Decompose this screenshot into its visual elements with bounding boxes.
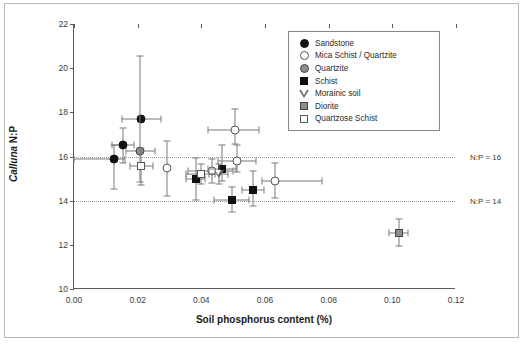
x-tick-label: 0.12 xyxy=(448,288,465,305)
legend-item-schist[interactable]: Schist xyxy=(293,75,435,88)
legend-item-sandstone[interactable]: Sandstone xyxy=(293,37,435,50)
data-point xyxy=(119,141,128,150)
x-error-cap xyxy=(258,127,259,134)
y-tick-mark xyxy=(70,112,74,113)
x-error-cap xyxy=(241,186,242,193)
legend-marker-triangle-open-icon xyxy=(293,90,315,98)
x-tick-label: 0.02 xyxy=(129,288,146,305)
y-error-cap xyxy=(137,56,144,57)
legend-label: Quartzite xyxy=(315,64,348,73)
data-point xyxy=(230,126,239,135)
data-point xyxy=(395,229,403,237)
x-error-cap xyxy=(249,196,250,203)
y-error-cap xyxy=(219,145,226,146)
x-tick-label: 0.06 xyxy=(257,288,274,305)
data-point xyxy=(137,162,145,170)
y-error-cap xyxy=(271,163,278,164)
x-error-cap xyxy=(154,147,155,154)
x-error-cap xyxy=(112,142,113,149)
y-error-cap xyxy=(249,170,256,171)
marker-shape xyxy=(300,39,309,48)
data-point xyxy=(162,163,171,172)
figure-frame: Calluna N:P Soil phosphorus content (%) … xyxy=(4,3,519,338)
legend-marker-square-gray-icon xyxy=(293,102,315,110)
x-error-cap xyxy=(207,127,208,134)
y-error-cap xyxy=(138,147,145,148)
marker-shape xyxy=(300,51,309,60)
marker-circle-filled-icon xyxy=(137,114,146,123)
x-tick-label: 0.00 xyxy=(66,288,83,305)
legend-label: Quartzose Schist xyxy=(315,114,377,123)
x-error-cap xyxy=(130,163,131,170)
legend-item-morainic-soil[interactable]: Morainic soil xyxy=(293,87,435,100)
x-tick-mark xyxy=(456,24,457,28)
legend-item-diorite[interactable]: Diorite xyxy=(293,100,435,113)
y-error-cap xyxy=(271,198,278,199)
marker-square-open-icon xyxy=(137,162,145,170)
x-tick-mark xyxy=(329,24,330,28)
legend-label: Mica Schist / Quartzite xyxy=(315,51,397,60)
x-tick-mark xyxy=(138,24,139,28)
data-point xyxy=(197,170,205,178)
legend-marker-circle-open-icon xyxy=(293,51,315,60)
legend-marker-square-filled-icon xyxy=(293,77,315,85)
legend-label: Sandstone xyxy=(315,39,354,48)
y-error-cap xyxy=(233,145,240,146)
y-error-cap xyxy=(219,180,226,181)
data-point xyxy=(137,114,146,123)
y-error-cap xyxy=(233,171,240,172)
marker-circle-open-icon xyxy=(230,126,239,135)
legend-marker-circle-gray-icon xyxy=(293,64,315,73)
y-error-cap xyxy=(395,245,402,246)
marker-square-filled-icon xyxy=(228,196,236,204)
y-error-cap xyxy=(197,164,204,165)
legend-item-quartzite[interactable]: Quartzite xyxy=(293,62,435,75)
legend-label: Diorite xyxy=(315,102,339,111)
x-error-cap xyxy=(389,229,390,236)
x-tick-mark xyxy=(74,24,75,28)
x-error-cap xyxy=(205,175,206,182)
y-error-cap xyxy=(208,158,215,159)
y-error-cap xyxy=(228,211,235,212)
marker-circle-open-icon xyxy=(162,163,171,172)
x-error-cap xyxy=(125,147,126,154)
y-error-cap xyxy=(249,206,256,207)
legend-marker-square-open-icon xyxy=(293,115,315,123)
x-error-cap xyxy=(228,171,229,178)
reference-line-label-np16: N:P = 16 xyxy=(470,152,501,161)
x-error-cap xyxy=(214,196,215,203)
y-tick-mark xyxy=(70,245,74,246)
marker-shape xyxy=(299,90,309,98)
x-axis-label: Soil phosphorus content (%) xyxy=(196,314,332,325)
y-error-cap xyxy=(192,157,199,158)
y-error-cap xyxy=(163,141,170,142)
data-point xyxy=(249,186,257,194)
x-error-cap xyxy=(152,163,153,170)
y-error-cap xyxy=(231,109,238,110)
marker-circle-open-icon xyxy=(270,176,279,185)
legend-item-mica-schist-quartzite[interactable]: Mica Schist / Quartzite xyxy=(293,50,435,63)
x-error-cap xyxy=(124,155,125,162)
marker-shape xyxy=(300,115,308,123)
data-point xyxy=(270,176,279,185)
marker-shape xyxy=(300,64,309,73)
legend-label: Schist xyxy=(315,77,337,86)
y-error-cap xyxy=(192,199,199,200)
x-error-cap xyxy=(264,186,265,193)
x-error-cap xyxy=(322,177,323,184)
x-error-cap xyxy=(186,171,187,178)
y-error-cap xyxy=(120,127,127,128)
reference-line-label-np14: N:P = 14 xyxy=(470,196,501,205)
legend-item-quartzose-schist[interactable]: Quartzose Schist xyxy=(293,113,435,126)
x-error-cap xyxy=(74,155,75,162)
legend: SandstoneMica Schist / QuartziteQuartzit… xyxy=(288,31,440,131)
marker-circle-filled-icon xyxy=(119,141,128,150)
data-point xyxy=(109,154,118,163)
y-error-cap xyxy=(215,164,222,165)
y-error-cap xyxy=(197,184,204,185)
y-error-cap xyxy=(110,188,117,189)
y-error-cap xyxy=(215,184,222,185)
data-point xyxy=(232,156,241,165)
marker-shape xyxy=(300,102,308,110)
x-error-cap xyxy=(122,115,123,122)
